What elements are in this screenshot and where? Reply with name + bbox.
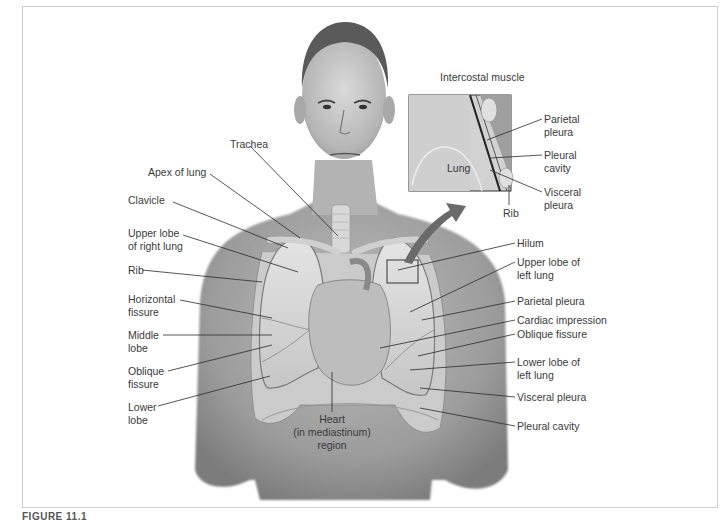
label-clavicle: Clavicle (128, 194, 165, 207)
label-horizontal-fissure: Horizontal fissure (128, 293, 175, 319)
label-upper-lobe-right: Upper lobe of right lung (128, 227, 183, 253)
inset-title: Intercostal muscle (440, 71, 525, 84)
label-middle-lobe: Middle lobe (128, 329, 159, 355)
inset-rib: Rib (503, 207, 519, 220)
label-lower-lobe: Lower lobe (128, 401, 157, 427)
label-trachea: Trachea (230, 138, 268, 151)
label-apex-of-lung: Apex of lung (148, 166, 206, 179)
label-pleural-cavity: Pleural cavity (517, 420, 579, 433)
label-upper-lobe-left: Upper lobe of left lung (517, 256, 580, 282)
label-cardiac-impression: Cardiac impression (517, 314, 607, 327)
inset-lung-label: Lung (447, 162, 470, 175)
label-parietal-pleura: Parietal pleura (517, 295, 585, 308)
figure-caption: FIGURE 11.1 (22, 511, 87, 522)
inset-visceral-pleura: Visceral pleura (544, 186, 581, 212)
label-oblique-fissure: Oblique fissure (128, 365, 164, 391)
label-rib: Rib (128, 264, 144, 277)
inset-pleural-cavity: Pleural cavity (544, 149, 577, 175)
trachea-shape (332, 205, 350, 253)
label-heart: Heart (in mediastinum) region (287, 413, 377, 452)
head (294, 22, 395, 159)
label-hilum: Hilum (517, 237, 544, 250)
inset-image (409, 95, 513, 191)
inset-parietal-pleura: Parietal pleura (544, 113, 580, 139)
label-oblique-fissure-left: Oblique fissure (517, 328, 587, 341)
label-lower-lobe-left: Lower lobe of left lung (517, 356, 580, 382)
label-visceral-pleura: Visceral pleura (517, 391, 586, 404)
heart (309, 280, 391, 386)
